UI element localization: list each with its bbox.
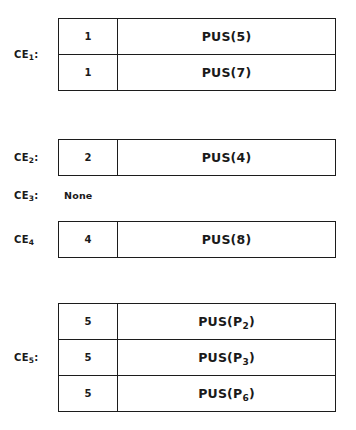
pus-argument-subscript: 2: [242, 321, 248, 331]
ce-label-suffix: :: [34, 152, 38, 163]
ce-group-ce2: CE2: 2 PUS(4): [0, 138, 336, 176]
ce-label-suffix: :: [34, 190, 38, 201]
pus-expression: PUS(P2): [198, 314, 255, 329]
pus-argument: P: [233, 350, 242, 365]
ce-group-ce4: CE4 4 PUS(8): [0, 220, 336, 258]
pus-expression: PUS(5): [202, 29, 252, 44]
pus-prefix: PUS(: [198, 386, 233, 401]
pus-suffix: ): [245, 150, 251, 165]
pus-argument: P: [233, 314, 242, 329]
ce-id-cell: 4: [59, 221, 118, 257]
table-row: 1 PUS(5): [59, 18, 336, 54]
pus-suffix: ): [249, 386, 255, 401]
pus-prefix: PUS(: [202, 29, 237, 44]
pus-argument: P: [233, 386, 242, 401]
ce-none-value: None: [58, 190, 92, 201]
pus-suffix: ): [249, 350, 255, 365]
pus-suffix: ): [245, 232, 251, 247]
ce-label-subscript: 3: [29, 194, 35, 203]
ce-table-ce1: 1 PUS(5) 1 PUS(7): [58, 18, 336, 91]
ce-label-base: CE: [14, 190, 29, 201]
ce-label-base: CE: [14, 352, 29, 363]
pus-argument-subscript: 6: [242, 393, 248, 403]
pus-prefix: PUS(: [202, 232, 237, 247]
ce-label-subscript: 4: [29, 238, 35, 247]
ce-group-ce3: CE3: None: [0, 185, 92, 205]
pus-prefix: PUS(: [198, 314, 233, 329]
table-row: 4 PUS(8): [59, 221, 336, 257]
pus-expression-cell: PUS(P2): [118, 303, 336, 339]
ce-table-ce2: 2 PUS(4): [58, 139, 336, 176]
pus-expression-cell: PUS(8): [118, 221, 336, 257]
ce-id-cell: 5: [59, 375, 118, 411]
pus-expression-cell: PUS(7): [118, 54, 336, 90]
ce-id-cell: 5: [59, 339, 118, 375]
ce-id-cell: 1: [59, 18, 118, 54]
pus-expression-cell: PUS(4): [118, 139, 336, 175]
pus-expression-cell: PUS(5): [118, 18, 336, 54]
ce-label-subscript: 2: [29, 156, 35, 165]
ce-group-ce1: CE1: 1 PUS(5) 1 PUS(7): [0, 18, 336, 90]
ce-label-ce5: CE5:: [0, 352, 58, 363]
ce-table-ce5: 5 PUS(P2) 5 PUS(P3) 5 PUS(P6): [58, 303, 336, 412]
ce-label-subscript: 5: [29, 356, 35, 365]
pus-expression: PUS(P6): [198, 386, 255, 401]
ce-label-base: CE: [14, 49, 29, 60]
pus-argument-subscript: 3: [242, 357, 248, 367]
ce-label-ce2: CE2:: [0, 152, 58, 163]
ce-label-suffix: :: [34, 352, 38, 363]
table-row: 5 PUS(P2): [59, 303, 336, 339]
pus-suffix: ): [249, 314, 255, 329]
pus-expression-cell: PUS(P6): [118, 375, 336, 411]
ce-label-base: CE: [14, 152, 29, 163]
ce-id-cell: 5: [59, 303, 118, 339]
ce-pus-figure: CE1: 1 PUS(5) 1 PUS(7) CE2: [0, 0, 356, 430]
ce-label-suffix: :: [34, 49, 38, 60]
ce-label-ce1: CE1:: [0, 49, 58, 60]
pus-expression: PUS(4): [202, 150, 252, 165]
ce-group-ce5: CE5: 5 PUS(P2) 5 PUS(P3) 5: [0, 302, 336, 412]
ce-label-subscript: 1: [29, 53, 35, 62]
pus-prefix: PUS(: [198, 350, 233, 365]
pus-expression: PUS(P3): [198, 350, 255, 365]
ce-label-base: CE: [14, 234, 29, 245]
pus-expression-cell: PUS(P3): [118, 339, 336, 375]
pus-suffix: ): [245, 29, 251, 44]
pus-prefix: PUS(: [202, 150, 237, 165]
pus-expression: PUS(8): [202, 232, 252, 247]
ce-table-ce4: 4 PUS(8): [58, 221, 336, 258]
ce-id-cell: 1: [59, 54, 118, 90]
ce-label-ce3: CE3:: [0, 190, 58, 201]
pus-suffix: ): [245, 65, 251, 80]
table-row: 5 PUS(P3): [59, 339, 336, 375]
ce-label-ce4: CE4: [0, 234, 58, 245]
table-row: 2 PUS(4): [59, 139, 336, 175]
table-row: 1 PUS(7): [59, 54, 336, 90]
pus-prefix: PUS(: [202, 65, 237, 80]
table-row: 5 PUS(P6): [59, 375, 336, 411]
pus-expression: PUS(7): [202, 65, 252, 80]
ce-id-cell: 2: [59, 139, 118, 175]
